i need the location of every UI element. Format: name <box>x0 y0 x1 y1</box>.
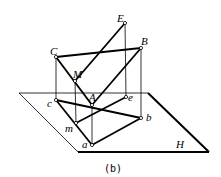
label-C: C <box>50 45 58 57</box>
label-c: c <box>47 97 52 109</box>
label-b: b <box>146 111 152 123</box>
label-e: e <box>128 91 133 103</box>
figure-caption: (b) <box>104 163 122 174</box>
label-m: m <box>65 122 73 134</box>
label-B: B <box>141 35 148 47</box>
projected-lines <box>56 97 141 145</box>
label-plane-h: H <box>175 138 185 150</box>
label-E: E <box>116 12 124 24</box>
label-A: A <box>88 91 96 103</box>
label-a: a <box>82 138 88 150</box>
projection-diagram: E B C M A e c m b a H (b) <box>0 0 221 177</box>
label-M: M <box>72 68 83 80</box>
